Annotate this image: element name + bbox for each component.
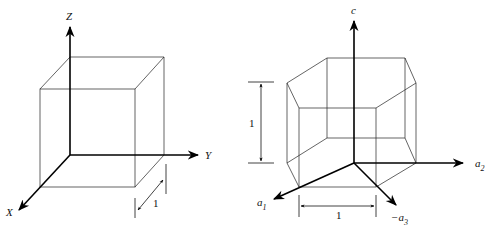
width-dimension-label: 1: [336, 209, 342, 221]
a3-axis-arrow: [354, 163, 396, 205]
hexagonal-cell: c a2 a1 −a3 1 1: [248, 4, 485, 227]
a2-axis-label: a2: [475, 157, 485, 173]
cube-dimension-label: 1: [153, 197, 159, 209]
cube-back-face: [70, 57, 164, 155]
c-axis-label: c: [351, 4, 356, 16]
z-axis-label: Z: [66, 10, 73, 22]
cube-dimension-arrow: [138, 180, 163, 210]
x-axis-label: X: [5, 206, 14, 218]
crystal-lattice-diagram: Z Y X 1 c a2 a1 −a3 1 1: [0, 0, 496, 231]
a1-axis-arrow: [274, 163, 354, 199]
a3-axis-label: −a3: [391, 211, 408, 227]
height-dimension-label: 1: [249, 117, 255, 129]
y-axis-label: Y: [205, 149, 213, 161]
a1-axis-label: a1: [257, 196, 267, 212]
hex-top-face: [287, 58, 416, 108]
cubic-cell: Z Y X 1: [5, 10, 213, 218]
x-axis-arrow: [19, 155, 70, 210]
